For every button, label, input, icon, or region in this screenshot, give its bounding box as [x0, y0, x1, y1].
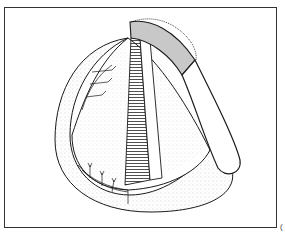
surgical-illustration — [0, 0, 285, 234]
corner-mark: ( — [280, 222, 283, 231]
